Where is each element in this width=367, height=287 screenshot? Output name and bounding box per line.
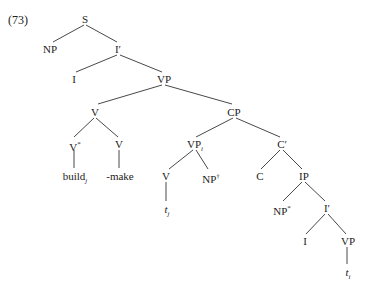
node-c: C (256, 170, 263, 182)
node-np-dagger: NP† (202, 170, 220, 185)
node-ibar-top: I′ (115, 43, 121, 55)
node-ibar-low: I′ (324, 202, 330, 214)
node-np-subject: NP (43, 43, 57, 55)
node-vp-top: VP (157, 73, 171, 85)
node-cp: CP (227, 106, 240, 118)
node-i-low: I (303, 235, 307, 247)
node-i-top: I (72, 73, 76, 85)
trace-t-i: ti (345, 266, 350, 283)
leaf-make: -make (106, 170, 133, 182)
node-vp-low: VP (341, 235, 355, 247)
node-v-low: V (162, 170, 170, 182)
node-cbar: C′ (277, 138, 287, 150)
trace-t-j: tj (164, 203, 169, 220)
node-v-star: V* (69, 138, 80, 153)
leaf-build: buildj (63, 170, 88, 187)
node-np-star: NP* (273, 202, 291, 217)
node-v-complex: V (91, 106, 99, 118)
node-s: S (82, 13, 88, 25)
node-vp-i: VPi (187, 138, 203, 155)
node-v-make: V (115, 138, 123, 150)
node-ip: IP (299, 170, 309, 182)
